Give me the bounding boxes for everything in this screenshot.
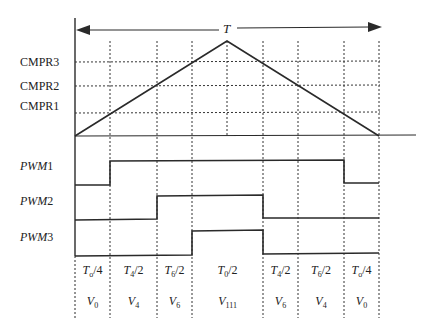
period-arrow-right-line [237, 27, 370, 28]
interval-time-3: T6/2 [157, 264, 192, 279]
pwm1-waveform [75, 160, 379, 185]
pwm2-waveform [75, 195, 379, 220]
interval-vector-2: V4 [110, 295, 157, 310]
pwm3-label: PWM3 [20, 231, 53, 243]
period-label: T [223, 22, 230, 35]
interval-vector-5: V6 [263, 295, 298, 310]
svpwm-timing-diagram [0, 0, 437, 332]
cmpr3-label: CMPR3 [20, 56, 59, 68]
cmpr1-label: CMPR1 [20, 100, 59, 112]
interval-vector-4: V111 [192, 295, 263, 310]
pwm1-label: PWM1 [20, 160, 53, 172]
interval-time-7: To/4 [344, 264, 379, 279]
carrier-baseline [75, 135, 416, 136]
interval-vector-3: V6 [157, 295, 192, 310]
arrow-left-head-icon [76, 25, 90, 35]
arrow-right-head-icon [368, 22, 382, 32]
pwm3-waveform [75, 230, 379, 256]
interval-time-1: To/4 [75, 264, 110, 279]
interval-time-4: T0/2 [192, 264, 263, 279]
interval-time-5: T4/2 [263, 264, 298, 279]
interval-vector-6: V4 [298, 295, 344, 310]
interval-vector-7: V0 [344, 295, 379, 310]
cmpr2-label: CMPR2 [20, 80, 59, 92]
interval-vector-1: V0 [75, 295, 110, 310]
pwm2-label: PWM2 [20, 195, 53, 207]
interval-time-6: T6/2 [298, 264, 344, 279]
interval-time-2: T4/2 [110, 264, 157, 279]
